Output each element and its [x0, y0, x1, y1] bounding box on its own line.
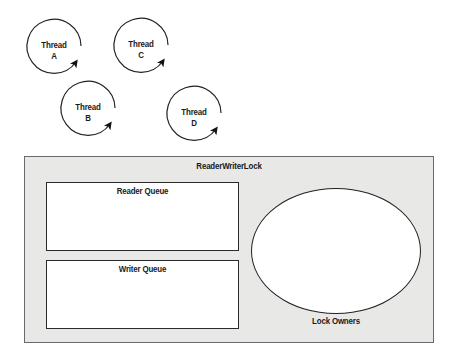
- reader-queue-box: Reader Queue: [46, 182, 239, 251]
- thread-b-title: Thread: [62, 102, 115, 113]
- writer-queue-label: Writer Queue: [58, 264, 226, 275]
- thread-d: Thread D: [164, 91, 224, 149]
- thread-a-label: Thread A: [28, 40, 81, 62]
- thread-b-label: Thread B: [62, 102, 115, 124]
- thread-c: Thread C: [111, 23, 171, 81]
- writer-queue-box: Writer Queue: [46, 260, 239, 329]
- thread-d-title: Thread: [168, 107, 221, 118]
- thread-c-title: Thread: [115, 39, 168, 50]
- thread-c-id: C: [115, 50, 168, 61]
- thread-d-label: Thread D: [168, 107, 221, 129]
- thread-a-id: A: [28, 51, 81, 62]
- thread-c-label: Thread C: [115, 39, 168, 61]
- thread-a-title: Thread: [28, 40, 81, 51]
- thread-b-id: B: [62, 113, 115, 124]
- lock-owners-ellipse: [251, 188, 421, 314]
- thread-b: Thread B: [58, 86, 118, 144]
- reader-writer-lock-title: ReaderWriterLock: [185, 161, 273, 172]
- reader-queue-label: Reader Queue: [58, 186, 226, 197]
- thread-a: Thread A: [24, 24, 84, 82]
- lock-owners-label: Lock Owners: [301, 316, 371, 327]
- thread-d-id: D: [168, 118, 221, 129]
